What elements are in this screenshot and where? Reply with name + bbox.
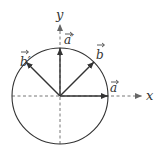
y-axis-label: y: [55, 7, 64, 22]
label-b-prime: b′: [20, 50, 31, 69]
svg-text:b′: b′: [20, 55, 31, 69]
vector-b: [60, 62, 94, 96]
x-axis-label: x: [146, 88, 154, 103]
vector-rotation-diagram: y x a b a′ b′: [0, 0, 162, 151]
label-a-prime: a′: [64, 32, 74, 47]
label-b: b: [96, 43, 105, 62]
vector-b-prime: [26, 62, 60, 96]
svg-text:a′: a′: [64, 33, 74, 47]
svg-text:b: b: [96, 48, 104, 62]
label-a: a: [110, 80, 119, 95]
svg-text:a: a: [110, 81, 117, 95]
